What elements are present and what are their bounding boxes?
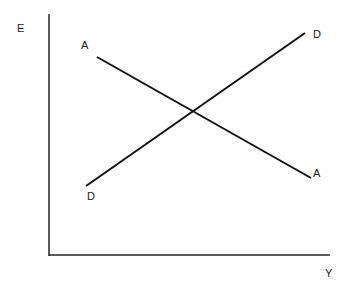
line-dd xyxy=(86,33,305,186)
line-dd-start-label: D xyxy=(87,191,95,202)
diagram-canvas xyxy=(0,0,345,289)
y-axis-label: E xyxy=(17,23,24,34)
line-dd-end-label: D xyxy=(313,29,321,40)
x-axis-label: Y xyxy=(325,268,332,279)
ad-diagram: E Y A A D D xyxy=(0,0,345,289)
line-aa xyxy=(97,57,311,178)
line-aa-start-label: A xyxy=(81,40,88,51)
line-aa-end-label: A xyxy=(313,168,320,179)
